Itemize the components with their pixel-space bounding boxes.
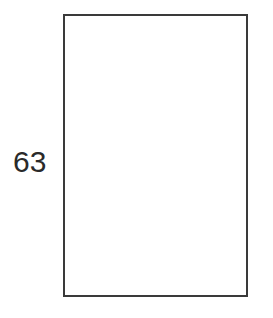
dimension-label-left-side: 63 xyxy=(13,145,53,179)
rectangle-shape xyxy=(63,14,248,297)
figure-canvas: 63 xyxy=(0,0,273,318)
rectangle-interior xyxy=(65,16,246,295)
